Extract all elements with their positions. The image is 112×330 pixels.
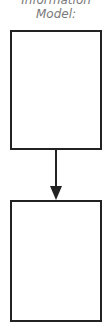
arrow-down-icon [50,186,62,200]
diagram-title-line1: Information [0,0,112,7]
diagram-title-line2: Model: [0,7,112,21]
diagram-box-top [10,30,102,150]
diagram-box-bottom [10,200,102,322]
arrow-down-line [55,150,57,190]
